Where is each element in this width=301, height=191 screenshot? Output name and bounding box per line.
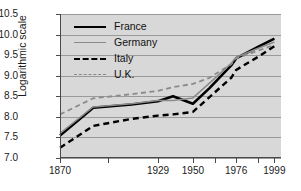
y-tick-label: 7.5 bbox=[0, 132, 18, 142]
x-tick-mark bbox=[193, 158, 194, 163]
legend-item-france: France bbox=[74, 19, 179, 35]
y-tick-mark bbox=[56, 35, 60, 36]
x-tick-label: 1870 bbox=[40, 165, 80, 176]
legend-line-uk bbox=[74, 74, 106, 75]
x-tick-mark bbox=[236, 158, 237, 163]
y-tick-mark bbox=[56, 96, 60, 97]
legend-line-italy bbox=[74, 58, 106, 60]
x-tick-mark bbox=[215, 158, 216, 163]
legend-label-germany: Germany bbox=[114, 36, 157, 48]
x-tick-label: 1950 bbox=[173, 165, 213, 176]
x-tick-mark bbox=[108, 158, 109, 163]
legend-item-germany: Germany bbox=[74, 35, 179, 51]
legend-item-italy: Italy bbox=[74, 51, 179, 67]
chart-legend: France Germany Italy U.K. bbox=[74, 19, 179, 83]
y-tick-mark bbox=[56, 55, 60, 56]
line-chart: 7.07.58.08.59.09.510.010.5 Logarithmic s… bbox=[0, 0, 301, 191]
legend-label-italy: Italy bbox=[114, 52, 133, 64]
x-tick-mark bbox=[158, 158, 159, 163]
y-tick-label: 7.0 bbox=[0, 153, 18, 163]
legend-label-france: France bbox=[114, 20, 147, 32]
y-tick-mark bbox=[56, 76, 60, 77]
y-tick-mark bbox=[56, 137, 60, 138]
x-tick-mark bbox=[258, 158, 259, 163]
x-tick-mark bbox=[274, 158, 275, 163]
legend-line-france bbox=[74, 26, 106, 28]
legend-item-uk: U.K. bbox=[74, 67, 179, 83]
y-tick-mark bbox=[56, 117, 60, 118]
x-tick-label: 1999 bbox=[254, 165, 294, 176]
y-axis-title: Logarithmic scale bbox=[16, 0, 28, 116]
x-tick-mark bbox=[60, 158, 61, 163]
legend-label-uk: U.K. bbox=[114, 68, 134, 80]
x-tick-label: 1976 bbox=[216, 165, 256, 176]
legend-line-germany bbox=[74, 42, 106, 43]
y-tick-mark bbox=[56, 14, 60, 15]
